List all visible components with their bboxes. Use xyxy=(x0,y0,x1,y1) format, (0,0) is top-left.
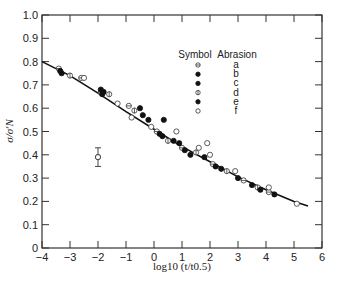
legend-label: f xyxy=(235,105,238,116)
y-axis-ticks: 00.10.20.30.40.50.60.70.80.91.0 xyxy=(23,9,322,254)
open-circle-marker xyxy=(196,145,201,150)
y-tick-label: 0.9 xyxy=(23,32,38,44)
filled-circle-marker xyxy=(161,117,166,122)
x-tick-label: −2 xyxy=(92,251,105,263)
filled-circle-marker xyxy=(272,192,277,197)
open-circle-marker xyxy=(129,115,134,120)
open-circle-marker xyxy=(205,141,210,146)
y-tick-label: 0.8 xyxy=(23,56,38,68)
filled-circle-marker xyxy=(58,68,63,73)
filled-circle-marker xyxy=(213,164,218,169)
filled-circle-marker xyxy=(188,152,193,157)
open-circle-marker xyxy=(233,169,238,174)
filled-circle-marker xyxy=(98,87,103,92)
filled-circle-marker xyxy=(196,100,200,104)
open-circle-marker xyxy=(196,109,200,113)
open-circle-marker xyxy=(294,201,299,206)
circle-hbar-marker xyxy=(241,178,246,183)
circle-vbar-marker xyxy=(132,108,137,113)
filled-circle-marker xyxy=(160,134,165,139)
y-tick-label: 0.6 xyxy=(23,102,38,114)
open-circle-marker xyxy=(207,152,212,157)
x-axis-label: log10 (t/t0.5) xyxy=(153,260,211,273)
x-tick-label: −1 xyxy=(120,251,133,263)
x-tick-label: 4 xyxy=(263,251,269,263)
legend: SymbolAbrasionabcdef xyxy=(178,49,256,116)
circle-hbar-marker xyxy=(126,103,131,108)
filled-circle-marker xyxy=(258,187,263,192)
open-circle-marker xyxy=(266,185,271,190)
y-tick-label: 1.0 xyxy=(23,9,38,21)
filled-circle-marker xyxy=(137,106,142,111)
y-tick-label: 0.1 xyxy=(23,219,38,231)
filled-circle-marker xyxy=(171,138,176,143)
y-tick-label: 0 xyxy=(32,242,38,254)
circle-vbar-marker xyxy=(165,138,170,143)
filled-circle-marker xyxy=(196,81,200,85)
y-tick-label: 0.4 xyxy=(23,149,38,161)
filled-circle-marker xyxy=(196,72,200,76)
y-tick-label: 0.3 xyxy=(23,172,38,184)
x-tick-label: 6 xyxy=(319,251,325,263)
filled-circle-marker xyxy=(219,166,224,171)
y-tick-label: 0.2 xyxy=(23,195,38,207)
open-circle-marker xyxy=(149,124,154,129)
circle-vbar-marker xyxy=(107,92,112,97)
data-points xyxy=(56,66,299,206)
x-tick-label: 3 xyxy=(235,251,241,263)
y-axis-label: σ/σ'N xyxy=(3,119,15,143)
filled-circle-marker xyxy=(140,113,145,118)
circle-vbar-marker xyxy=(193,150,198,155)
chart: −4−3−2−10123456 00.10.20.30.40.50.60.70.… xyxy=(0,0,337,281)
filled-circle-marker xyxy=(202,155,207,160)
circle-vbar-marker xyxy=(196,90,200,94)
filled-circle-marker xyxy=(182,148,187,153)
open-circle-marker xyxy=(115,101,120,106)
y-tick-label: 0.7 xyxy=(23,79,38,91)
circle-vbar-marker xyxy=(224,169,229,174)
circle-hbar-marker xyxy=(196,63,200,67)
circle-vbar-marker xyxy=(67,73,72,78)
filled-circle-marker xyxy=(249,182,254,187)
y-tick-label: 0.5 xyxy=(23,126,38,138)
x-tick-label: 5 xyxy=(291,251,297,263)
open-circle-marker xyxy=(81,75,86,80)
legend-header-symbol: Symbol xyxy=(178,49,211,60)
error-bar xyxy=(95,148,101,167)
x-tick-label: −3 xyxy=(64,251,77,263)
filled-circle-marker xyxy=(146,117,151,122)
filled-circle-marker xyxy=(177,141,182,146)
open-circle-marker xyxy=(174,129,179,134)
filled-circle-marker xyxy=(235,176,240,181)
